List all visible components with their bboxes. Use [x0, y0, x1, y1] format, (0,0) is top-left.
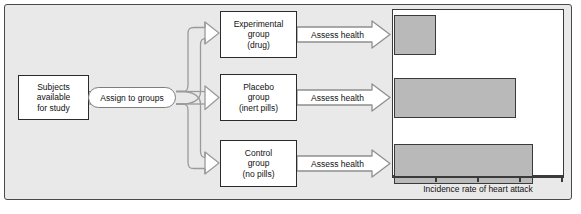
- experimental-group-box: Experimental group (drug): [220, 11, 297, 58]
- assign-to-groups-label: Assign to groups: [88, 87, 176, 108]
- control-group-box: Control group (no pills): [220, 140, 297, 187]
- chart-x-axis-label: Incidence rate of heart attack: [392, 184, 564, 194]
- placebo-group-box: Placebo group (inert pills): [220, 74, 297, 121]
- control-line-3: (no pills): [221, 169, 296, 180]
- subjects-line-3: for study: [19, 103, 88, 114]
- chart-tick-2: [477, 177, 478, 182]
- bar-placebo: [394, 78, 516, 118]
- chart-tick-4: [561, 177, 562, 182]
- experimental-line-1: Experimental: [221, 19, 296, 30]
- assess-health-label-control: Assess health: [311, 159, 364, 169]
- control-line-2: group: [221, 158, 296, 169]
- subjects-line-1: Subjects: [19, 82, 88, 93]
- assign-to-groups-text: Assign to groups: [100, 93, 163, 103]
- bar-control: [394, 144, 533, 184]
- placebo-line-3: (inert pills): [221, 103, 296, 114]
- chart-tick-3: [519, 177, 520, 182]
- assess-health-label-placebo: Assess health: [311, 93, 364, 103]
- placebo-line-1: Placebo: [221, 82, 296, 93]
- placebo-line-2: group: [221, 92, 296, 103]
- experimental-line-2: group: [221, 29, 296, 40]
- chart-tick-1: [435, 177, 436, 182]
- assess-health-label-experimental: Assess health: [311, 30, 364, 40]
- diagram-canvas: Subjects available for study Experimenta…: [0, 0, 581, 214]
- subjects-line-2: available: [19, 92, 88, 103]
- experimental-line-3: (drug): [221, 40, 296, 51]
- bar-experimental: [394, 15, 436, 55]
- control-line-1: Control: [221, 148, 296, 159]
- subjects-available-box: Subjects available for study: [18, 75, 89, 120]
